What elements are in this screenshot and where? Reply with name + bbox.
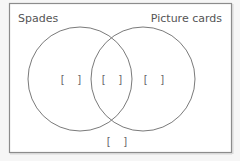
outside-placeholder[interactable]: [ ] <box>107 136 128 147</box>
picture-only-placeholder[interactable]: [ ] <box>144 74 165 85</box>
box-shadow-bottom <box>10 153 232 155</box>
spades-only-placeholder[interactable]: [ ] <box>61 74 82 85</box>
picture-cards-label: Picture cards <box>151 12 222 25</box>
venn-diagram: Spades Picture cards [ ] [ ] [ ] [ ] <box>0 0 240 161</box>
intersection-placeholder[interactable]: [ ] <box>102 74 123 85</box>
box-shadow-right <box>232 4 234 154</box>
spades-label: Spades <box>18 12 58 25</box>
